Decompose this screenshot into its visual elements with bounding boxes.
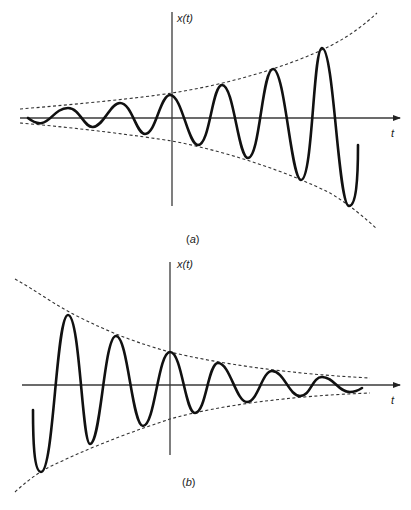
oscillation-figure: x(t) t (a) x(t) t (b) — [0, 0, 411, 510]
upper-envelope-b — [15, 279, 370, 378]
y-axis-label-a: x(t) — [176, 12, 193, 24]
x-axis-label-a: t — [391, 127, 395, 139]
panel-a: x(t) t (a) — [20, 12, 400, 245]
growing-signal-curve — [28, 48, 358, 206]
panel-label-a: (a) — [186, 233, 199, 245]
y-axis-label-b: x(t) — [176, 258, 193, 270]
upper-envelope-a — [20, 13, 377, 109]
panel-label-b: (b) — [182, 476, 195, 488]
decaying-signal-curve — [33, 315, 362, 472]
panel-b: x(t) t (b) — [15, 258, 400, 492]
x-axis-label-b: t — [391, 394, 395, 406]
lower-envelope-a — [20, 123, 377, 229]
